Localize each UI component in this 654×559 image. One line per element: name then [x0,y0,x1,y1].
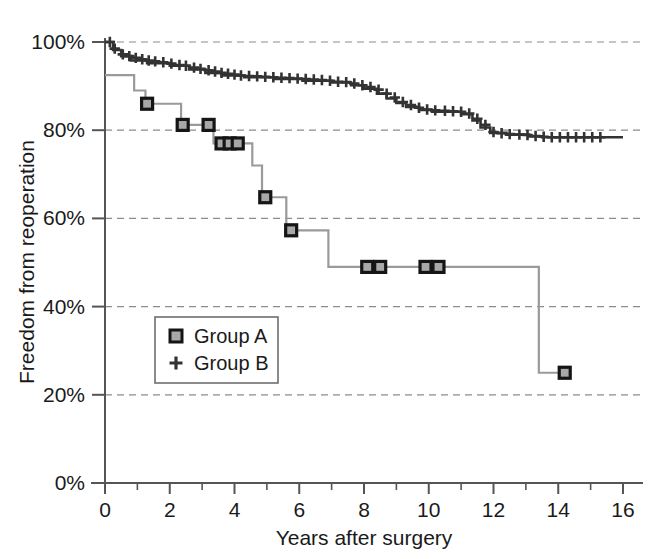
y-tick-label-100: 100% [31,30,85,53]
legend-label-group-b: Group B [194,352,268,374]
censor-marker-square-0 [142,98,153,109]
x-tick-label-10: 10 [417,498,440,521]
tick-labels: 0%20%40%60%80%100%0246810121416 [31,30,634,521]
x-tick-label-14: 14 [547,498,571,521]
censor-marker-square-9 [375,261,386,272]
legend-marker-square [170,330,182,342]
censor-marker-plus-15 [210,66,220,76]
x-tick-label-16: 16 [611,498,634,521]
censor-marker-plus-63 [595,132,605,142]
x-tick-label-4: 4 [229,498,241,521]
censor-marker-square-2 [203,119,214,130]
censor-marker-square-7 [286,225,297,236]
x-axis-title: Years after surgery [276,526,453,549]
censor-marker-square-11 [433,261,444,272]
censor-marker-plus-8 [158,57,168,67]
legend: Group AGroup B [155,317,278,383]
censor-marker-square-10 [420,261,431,272]
legend-label-group-a: Group A [194,325,268,347]
censor-marker-plus-43 [430,105,440,115]
x-tick-label-0: 0 [99,498,111,521]
figure-container: 0%20%40%60%80%100%0246810121416 Years af… [0,0,654,559]
x-tick-label-12: 12 [482,498,505,521]
censor-marker-square-8 [362,261,373,272]
kaplan-meier-chart: 0%20%40%60%80%100%0246810121416 Years af… [0,0,654,559]
x-tick-label-6: 6 [293,498,305,521]
y-tick-label-60: 60% [43,206,85,229]
y-tick-label-40: 40% [43,295,85,318]
censor-marker-plus-12 [189,62,199,72]
censor-marker-square-6 [260,192,271,203]
x-tick-label-2: 2 [164,498,176,521]
censor-marker-plus-9 [166,58,176,68]
y-tick-label-0: 0% [55,471,85,494]
censor-marker-square-5 [232,138,243,149]
censor-marker-square-1 [177,119,188,130]
x-tick-label-8: 8 [358,498,370,521]
censor-marker-square-12 [559,367,570,378]
y-tick-label-80: 80% [43,118,85,141]
y-axis-title: Freedom from reoperation [15,140,38,384]
censor-marker-plus-33 [349,78,359,88]
y-tick-label-20: 20% [43,383,85,406]
